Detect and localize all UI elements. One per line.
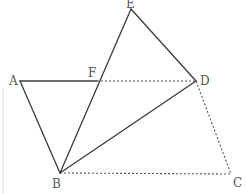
label-point-E: E xyxy=(126,0,135,11)
segment-BC-dashed xyxy=(60,173,231,174)
geometry-figure: A B C D E F xyxy=(0,0,247,194)
segment-DC-dashed xyxy=(196,81,231,174)
label-point-D: D xyxy=(200,74,210,88)
label-point-A: A xyxy=(8,74,18,88)
label-point-C: C xyxy=(233,176,242,190)
segment-AB xyxy=(20,81,60,173)
label-point-F: F xyxy=(88,66,96,80)
label-point-B: B xyxy=(52,177,61,191)
segment-ED xyxy=(131,9,196,81)
